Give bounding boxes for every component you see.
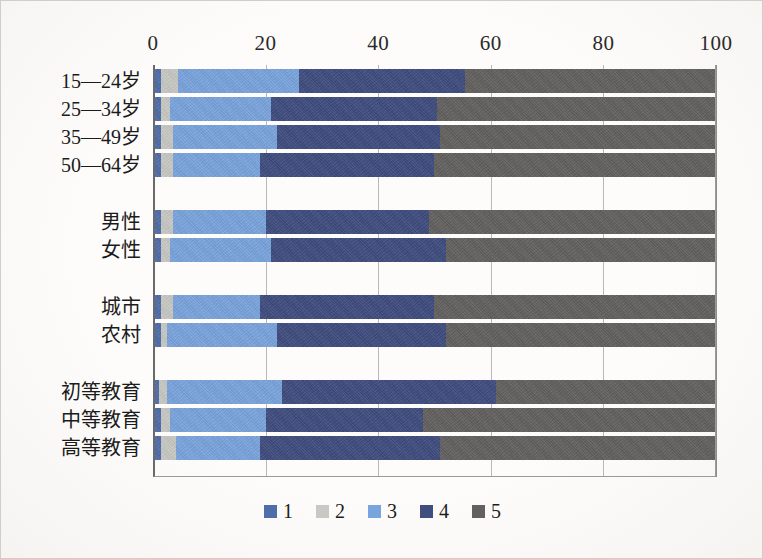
legend-item-2[interactable]: 2: [316, 501, 345, 521]
category-label: 农村: [101, 325, 141, 345]
bar-segment-series-4: [266, 210, 429, 234]
bar-segment-series-2: [159, 380, 167, 404]
x-axis-tick-labels: 020406080100: [1, 31, 763, 57]
bar-segment-series-1: [153, 436, 161, 460]
bar-segment-series-1: [153, 153, 161, 177]
bar-segment-series-3: [170, 97, 271, 121]
legend-label: 4: [439, 501, 449, 521]
bar-segment-series-1: [153, 210, 161, 234]
bar-segment-series-4: [277, 323, 446, 347]
category-label: 男性: [101, 212, 141, 232]
legend-item-1[interactable]: 1: [264, 501, 293, 521]
chart-page: 020406080100 15—24岁25—34岁35—49岁50—64岁男性女…: [0, 0, 763, 559]
category-label: 35—49岁: [61, 127, 141, 147]
bar-segment-series-1: [153, 69, 161, 93]
bar-row: [153, 153, 716, 177]
bar-segment-series-3: [173, 295, 260, 319]
bar-segment-series-1: [153, 125, 161, 149]
bar-segment-series-5: [446, 323, 716, 347]
category-label: 25—34岁: [61, 99, 141, 119]
bar-segment-series-1: [153, 97, 161, 121]
legend-swatch-3: [368, 505, 381, 518]
category-label: 15—24岁: [61, 71, 141, 91]
category-label: 初等教育: [61, 382, 141, 402]
bar-row: [153, 408, 716, 432]
plot-area: [153, 65, 716, 477]
chart-legend: 12345: [1, 501, 763, 521]
bar-segment-series-2: [161, 295, 172, 319]
bar-segment-series-4: [271, 97, 437, 121]
category-label: 女性: [101, 240, 141, 260]
bar-segment-series-5: [496, 380, 716, 404]
legend-item-3[interactable]: 3: [368, 501, 397, 521]
bar-segment-series-4: [271, 238, 446, 262]
bar-segment-series-5: [434, 295, 716, 319]
x-tick-40: 40: [367, 31, 389, 56]
bar-segment-series-3: [167, 380, 282, 404]
legend-item-5[interactable]: 5: [472, 501, 501, 521]
bar-segment-series-2: [161, 210, 172, 234]
bar-segment-series-3: [173, 153, 260, 177]
category-label: 高等教育: [61, 438, 141, 458]
category-label: 50—64岁: [61, 155, 141, 175]
legend-label: 3: [387, 501, 397, 521]
bar-row: [153, 125, 716, 149]
bar-segment-series-3: [176, 436, 260, 460]
bar-segment-series-3: [170, 408, 266, 432]
x-tick-100: 100: [700, 31, 733, 56]
category-label: 城市: [101, 297, 141, 317]
legend-item-4[interactable]: 4: [420, 501, 449, 521]
bar-segment-series-5: [429, 210, 716, 234]
bar-row: [153, 323, 716, 347]
bar-segment-series-4: [277, 125, 440, 149]
bar-row: [153, 238, 716, 262]
legend-label: 1: [283, 501, 293, 521]
bar-segment-series-2: [161, 125, 172, 149]
bar-row: [153, 295, 716, 319]
y-axis-category-labels: 15—24岁25—34岁35—49岁50—64岁男性女性城市农村初等教育中等教育…: [1, 65, 147, 477]
bar-segment-series-3: [178, 69, 299, 93]
bar-segment-series-5: [423, 408, 716, 432]
bar-segment-series-5: [434, 153, 716, 177]
bar-segment-series-3: [173, 210, 266, 234]
x-tick-20: 20: [255, 31, 277, 56]
bar-row: [153, 97, 716, 121]
x-tick-0: 0: [148, 31, 159, 56]
bar-segment-series-4: [266, 408, 424, 432]
bar-segment-series-2: [161, 69, 178, 93]
bar-segment-series-2: [161, 408, 169, 432]
bar-row: [153, 380, 716, 404]
bar-segment-series-4: [260, 153, 435, 177]
bar-segment-series-3: [173, 125, 277, 149]
legend-swatch-2: [316, 505, 329, 518]
bar-segment-series-5: [440, 436, 716, 460]
bar-segment-series-2: [161, 238, 169, 262]
bar-segment-series-5: [440, 125, 716, 149]
legend-swatch-4: [420, 505, 433, 518]
bar-segment-series-1: [153, 238, 161, 262]
bar-segment-series-4: [260, 295, 435, 319]
bar-segment-series-2: [161, 153, 172, 177]
legend-label: 5: [491, 501, 501, 521]
bar-segment-series-5: [437, 97, 716, 121]
bar-rows: [153, 65, 716, 477]
legend-swatch-5: [472, 505, 485, 518]
bar-segment-series-2: [161, 97, 169, 121]
bar-segment-series-3: [167, 323, 277, 347]
bar-segment-series-4: [260, 436, 440, 460]
bar-segment-series-3: [170, 238, 271, 262]
bar-segment-series-5: [465, 69, 716, 93]
legend-label: 2: [335, 501, 345, 521]
category-label: 中等教育: [61, 410, 141, 430]
bar-row: [153, 69, 716, 93]
bar-segment-series-4: [282, 380, 496, 404]
gridline-100: [716, 65, 717, 477]
bar-segment-series-1: [153, 323, 161, 347]
x-tick-60: 60: [480, 31, 502, 56]
bar-segment-series-4: [299, 69, 465, 93]
bar-segment-series-2: [161, 436, 175, 460]
bar-row: [153, 436, 716, 460]
bar-row: [153, 210, 716, 234]
bar-segment-series-1: [153, 295, 161, 319]
legend-swatch-1: [264, 505, 277, 518]
